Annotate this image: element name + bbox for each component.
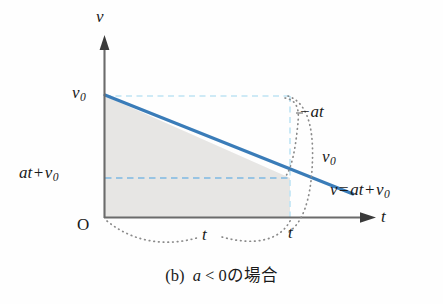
t-tick-label: t bbox=[288, 224, 293, 241]
caption-variable: a bbox=[193, 266, 201, 285]
equation-term-at: at bbox=[350, 180, 363, 199]
minus-at-label: −at bbox=[299, 103, 324, 120]
dotted-brace-minus-at bbox=[285, 98, 298, 176]
origin-label: O bbox=[77, 216, 89, 233]
caption-relation: < 0 bbox=[205, 266, 227, 285]
v0-axis-label-base: v bbox=[72, 83, 80, 102]
t-brace-label: t bbox=[202, 226, 207, 243]
v0-brace-label: v0 bbox=[322, 148, 336, 168]
v0-axis-label-sub: 0 bbox=[80, 91, 86, 104]
v0-term-base: v bbox=[45, 163, 53, 182]
dotted-brace-bottom-left bbox=[107, 221, 200, 242]
at-term: at bbox=[19, 163, 32, 182]
t-axis-arrowhead bbox=[360, 212, 376, 222]
v-axis-label: v bbox=[96, 8, 104, 25]
caption-tail: の場合 bbox=[227, 266, 278, 285]
figure-caption: (b) a < 0の場合 bbox=[0, 262, 443, 286]
dotted-brace-bottom-right bbox=[222, 219, 291, 241]
v-axis-arrowhead bbox=[100, 35, 110, 50]
line-equation-label: v=at+v0 bbox=[330, 181, 390, 201]
graph-canvas bbox=[0, 0, 443, 304]
v0-axis-label: v0 bbox=[72, 84, 86, 104]
at-plus-v0-axis-label: at+v0 bbox=[19, 164, 59, 184]
equation-equals: = bbox=[339, 180, 349, 199]
equation-term-v0-sub: 0 bbox=[384, 188, 390, 201]
caption-prefix: (b) bbox=[165, 266, 184, 285]
equation-lhs: v bbox=[330, 180, 338, 199]
plus-operator: + bbox=[34, 163, 44, 182]
v0-brace-label-base: v bbox=[322, 147, 330, 166]
velocity-time-graph-figure: v t O v0 at+v0 −at v0 v=at+v0 t t (b) a … bbox=[0, 0, 443, 304]
v0-term-sub: 0 bbox=[53, 171, 59, 184]
t-axis-label: t bbox=[381, 208, 386, 225]
v0-brace-label-sub: 0 bbox=[330, 155, 336, 168]
equation-term-v0-base: v bbox=[376, 180, 384, 199]
equation-plus: + bbox=[365, 180, 375, 199]
